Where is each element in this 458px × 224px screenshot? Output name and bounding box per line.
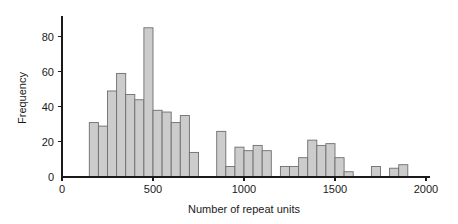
x-tick-label: 2000 — [414, 183, 438, 195]
histogram-bar — [371, 166, 380, 177]
histogram-bar — [108, 91, 117, 177]
x-tick-label: 500 — [144, 183, 162, 195]
histogram-bar — [290, 166, 299, 177]
histogram-bar — [280, 166, 289, 177]
histogram-figure: 0500100015002000020406080Number of repea… — [0, 0, 458, 224]
x-tick-label: 1500 — [323, 183, 347, 195]
histogram-bar — [244, 151, 253, 177]
histogram-bar — [217, 131, 226, 177]
histogram-bar — [226, 166, 235, 177]
histogram-bar — [180, 116, 189, 177]
histogram-bar — [390, 168, 399, 177]
histogram-bar — [98, 126, 107, 177]
histogram-bar — [335, 158, 344, 177]
x-axis-title: Number of repeat units — [188, 203, 300, 215]
histogram-bar — [162, 112, 171, 177]
histogram-bar — [135, 100, 144, 177]
histogram-plot: 0500100015002000020406080Number of repea… — [0, 0, 458, 224]
x-tick-label: 0 — [59, 183, 65, 195]
y-tick-label: 40 — [42, 101, 54, 113]
y-tick-label: 60 — [42, 66, 54, 78]
histogram-bar — [299, 158, 308, 177]
x-tick-label: 1000 — [232, 183, 256, 195]
histogram-bar — [326, 144, 335, 177]
y-tick-label: 20 — [42, 136, 54, 148]
histogram-bar — [235, 147, 244, 177]
histogram-bar — [117, 73, 126, 177]
histogram-bar — [253, 145, 262, 177]
histogram-bar — [262, 151, 271, 177]
y-tick-label: 80 — [42, 31, 54, 43]
histogram-bar — [126, 94, 135, 177]
histogram-bar — [308, 140, 317, 177]
y-tick-label: 0 — [48, 171, 54, 183]
histogram-bar — [189, 152, 198, 177]
histogram-bar — [171, 123, 180, 177]
histogram-bar — [144, 28, 153, 177]
histogram-bar — [399, 165, 408, 177]
histogram-bar — [89, 123, 98, 177]
histogram-bar — [317, 145, 326, 177]
histogram-bar — [344, 172, 353, 177]
histogram-bar — [153, 110, 162, 177]
y-axis-title: Frequency — [16, 72, 28, 124]
